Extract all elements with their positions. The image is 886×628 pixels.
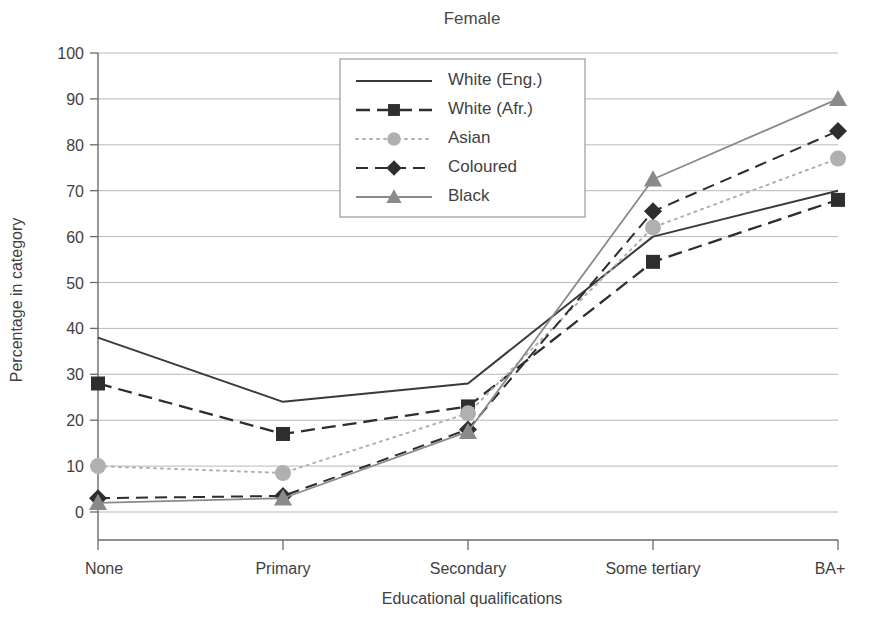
y-axis-title: Percentage in category [8, 218, 25, 383]
y-tick-label: 90 [66, 91, 84, 108]
legend-label: Asian [448, 128, 491, 147]
x-tick-label: Some tertiary [605, 560, 700, 577]
marker-square [388, 104, 400, 116]
x-axis-title: Educational qualifications [382, 590, 563, 607]
marker-diamond [829, 122, 847, 140]
y-tick-label: 30 [66, 366, 84, 383]
marker-circle [90, 458, 106, 474]
marker-square [276, 427, 290, 441]
marker-circle [387, 132, 401, 146]
legend-label: Coloured [448, 157, 517, 176]
legend-label: Black [448, 186, 490, 205]
x-axis [98, 540, 838, 550]
line-chart: 0102030405060708090100 NonePrimarySecond… [0, 0, 886, 628]
marker-square [831, 193, 845, 207]
marker-circle [275, 465, 291, 481]
legend-label: White (Eng.) [448, 70, 542, 89]
y-tick-label: 40 [66, 320, 84, 337]
marker-triangle [644, 170, 662, 186]
y-tick-label: 70 [66, 183, 84, 200]
marker-triangle [829, 90, 847, 106]
y-tick-label: 0 [75, 504, 84, 521]
marker-circle [830, 151, 846, 167]
series-line [98, 200, 838, 434]
y-tick-label: 10 [66, 458, 84, 475]
y-tick-label: 50 [66, 275, 84, 292]
marker-diamond [644, 202, 662, 220]
y-tick-label: 80 [66, 137, 84, 154]
y-tick-label: 60 [66, 229, 84, 246]
x-tick-label: BA+ [815, 560, 846, 577]
x-tick-label: Secondary [430, 560, 507, 577]
marker-circle [645, 219, 661, 235]
marker-circle [460, 405, 476, 421]
chart-title: Female [444, 9, 501, 28]
marker-square [646, 255, 660, 269]
marker-square [91, 376, 105, 390]
chart-container: 0102030405060708090100 NonePrimarySecond… [0, 0, 886, 628]
x-tick-label: None [85, 560, 123, 577]
series-white-eng [98, 191, 838, 402]
y-tick-label: 100 [57, 45, 84, 62]
legend: White (Eng.)White (Afr.)AsianColouredBla… [340, 59, 585, 217]
x-tick-labels: NonePrimarySecondarySome tertiaryBA+ [85, 560, 845, 577]
legend-label: White (Afr.) [448, 99, 533, 118]
series-white-afr [91, 193, 845, 441]
y-tick-label: 20 [66, 412, 84, 429]
y-tick-labels: 0102030405060708090100 [57, 45, 84, 521]
x-tick-label: Primary [255, 560, 310, 577]
series-line [98, 191, 838, 402]
